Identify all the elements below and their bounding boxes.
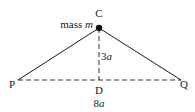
label-q: Q: [180, 78, 188, 90]
base-symbol: a: [99, 97, 105, 109]
label-p: P: [9, 78, 15, 90]
label-d: D: [95, 84, 103, 96]
mass-prefix: mass: [60, 18, 85, 30]
string-mass-diagram: C mass m P Q D 3a 8a: [0, 0, 195, 112]
label-base: 8a: [94, 97, 106, 109]
string-pc: [18, 28, 99, 80]
height-symbol: a: [107, 50, 113, 62]
label-mass: mass m: [60, 18, 93, 30]
label-height: 3a: [101, 50, 113, 62]
mass-symbol: m: [85, 18, 93, 30]
label-c: C: [95, 7, 102, 19]
mass-point: [96, 25, 102, 31]
